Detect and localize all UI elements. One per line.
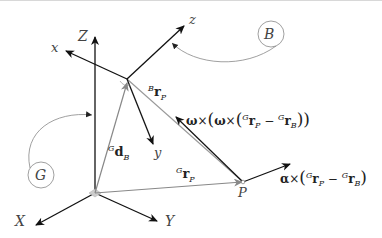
label-X: X [15,214,25,228]
label-tangential-term: α×(GrP − GrB) [280,169,367,188]
frame-G-leader [29,114,92,168]
kinematics-diagram: Z X Y x z y B G P GdB GrP BrP ω×(ω×(GrP … [0,0,382,238]
label-Y: Y [165,214,174,228]
label-Z: Z [78,29,88,43]
point-P-marker [241,180,245,184]
axis-X [36,193,95,225]
label-point-P: P [238,186,247,199]
label-r-P-body: BrP [148,85,166,102]
label-d-B: GdB [108,145,129,162]
label-frame-B: B [264,27,274,41]
axis-x [66,51,127,79]
vector-d-B [95,83,127,193]
label-z: z [189,13,196,26]
label-y: y [154,146,161,159]
axis-Y [95,193,157,221]
label-x: x [51,41,58,54]
label-frame-G: G [35,168,46,182]
axis-z [127,26,184,79]
frame-B-leader [172,43,276,62]
vector-r-P-global [95,182,242,193]
label-r-P-global: GrP [176,167,195,184]
label-centripetal-term: ω×(ω×(GrP − GrB)) [186,111,310,130]
